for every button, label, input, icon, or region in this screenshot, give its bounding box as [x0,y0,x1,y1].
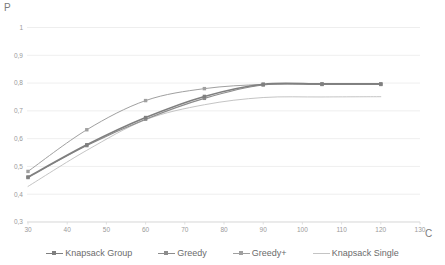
data-point [144,99,147,102]
legend-item-greedy-plus[interactable]: Greedy+ [233,248,287,258]
data-point [379,82,382,85]
legend-item-greedy[interactable]: Greedy [158,248,207,258]
y-tick-label: 1 [19,24,23,31]
x-tick-label: 40 [64,226,72,233]
data-point [262,82,265,85]
legend-item-knapsack-group[interactable]: Knapsack Group [46,248,132,258]
x-tick-label: 120 [375,226,386,233]
y-tick-label: 0,6 [14,135,23,142]
legend-marker-knapsack-single [313,249,330,258]
chart-container: P C 0,30,40,50,60,70,80,9130405060708090… [0,0,445,265]
legend-marker-greedy-plus [233,249,250,258]
legend-label-knapsack-single: Knapsack Single [332,248,399,258]
legend-label-knapsack-group: Knapsack Group [65,248,132,258]
plot-area: 0,30,40,50,60,70,80,91304050607080901001… [0,0,445,265]
x-tick-label: 130 [415,226,426,233]
y-tick-label: 0,5 [14,163,23,170]
data-point [85,128,88,131]
y-tick-label: 0,9 [14,52,23,59]
x-tick-label: 110 [336,226,347,233]
legend-marker-knapsack-group [46,249,63,258]
x-tick-label: 30 [24,226,32,233]
data-point [203,87,206,90]
legend-label-greedy-plus: Greedy+ [252,248,287,258]
x-tick-label: 90 [260,226,268,233]
x-tick-label: 50 [103,226,111,233]
data-point [26,175,29,178]
x-tick-label: 80 [220,226,228,233]
x-tick-label: 70 [181,226,189,233]
data-point [26,170,29,173]
y-tick-label: 0,4 [14,191,23,198]
legend-marker-greedy [158,249,175,258]
data-point [320,82,323,85]
legend-item-knapsack-single[interactable]: Knapsack Single [313,248,399,258]
data-point [85,143,88,146]
x-tick-label: 100 [297,226,308,233]
y-tick-label: 0,8 [14,79,23,86]
y-tick-label: 0,3 [14,218,23,225]
chart-legend: Knapsack Group Greedy Greedy+ Knapsack S… [0,244,445,262]
x-tick-label: 60 [142,226,150,233]
data-point [203,95,206,98]
series-line-knapsack-single [28,97,381,187]
data-point [144,116,147,119]
y-tick-label: 0,7 [14,107,23,114]
legend-label-greedy: Greedy [177,248,207,258]
